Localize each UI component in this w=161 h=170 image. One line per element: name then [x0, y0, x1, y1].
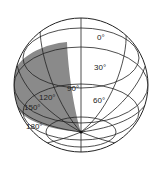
pole-point	[79, 130, 82, 133]
label-60: 60°	[93, 97, 105, 105]
label-150: 150°	[24, 104, 41, 112]
label-90: 90°	[67, 85, 79, 93]
sphere-graphic	[0, 0, 161, 170]
label-0: 0°	[97, 34, 105, 42]
label-30: 30°	[94, 64, 106, 72]
label-180: 180°	[26, 123, 43, 131]
sphere-diagram: 0° 30° 60° 90° 120° 150° 180°	[0, 0, 161, 170]
label-120: 120°	[39, 94, 56, 102]
